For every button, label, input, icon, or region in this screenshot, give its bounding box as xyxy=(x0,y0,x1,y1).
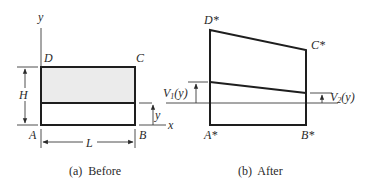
position-label: y xyxy=(154,108,161,122)
length-label: L xyxy=(85,136,93,150)
corner-a-label: A xyxy=(28,128,37,142)
corner-c-label: C xyxy=(136,51,145,65)
y-axis-label: y xyxy=(37,10,44,24)
corner-b-label: B xyxy=(139,128,147,142)
x-axis-label: x xyxy=(167,118,174,132)
panel-before: y D C A B H L y x (a) Before xyxy=(17,10,174,178)
deformed-shape xyxy=(210,30,306,125)
v2-label: V2(y) xyxy=(330,90,355,105)
corner-b-star-label: B* xyxy=(301,128,314,142)
v1-label: V1(y) xyxy=(163,86,188,101)
corner-d-star-label: D* xyxy=(203,13,219,27)
height-label: H xyxy=(18,88,29,102)
deformation-diagram: y D C A B H L y x (a) Before xyxy=(0,0,370,188)
corner-c-star-label: C* xyxy=(311,38,325,52)
shaded-region xyxy=(41,67,135,103)
caption-after: (b) After xyxy=(238,164,283,178)
corner-d-label: D xyxy=(43,51,53,65)
caption-before: (a) Before xyxy=(69,164,121,178)
fiber-line-after xyxy=(210,82,306,93)
panel-after: D* C* A* B* V1(y) V2(y) (b) After xyxy=(163,13,355,178)
corner-a-star-label: A* xyxy=(203,128,217,142)
